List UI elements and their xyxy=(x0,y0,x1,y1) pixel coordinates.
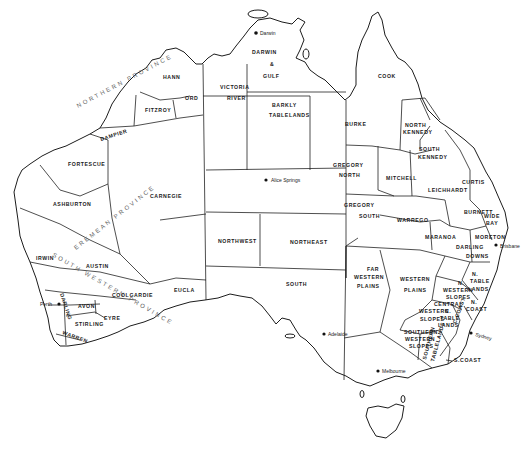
melville-island xyxy=(248,10,268,18)
adelaide-marker xyxy=(322,332,325,335)
region-northeast: NORTHEAST xyxy=(290,239,328,245)
region-coolgardie: COOLGARDIE xyxy=(112,292,153,298)
region-far-western-plains-1: FAR xyxy=(367,266,379,272)
region-wide-bay-2: BAY xyxy=(486,220,498,226)
region-north-kennedy-1: NORTH xyxy=(405,122,426,128)
region-n-tablelands-2: TABLE xyxy=(470,278,490,284)
region-northwest: NORTHWEST xyxy=(218,238,257,244)
city-perth: Perth xyxy=(40,301,52,307)
australia-regions-map: Darwin Alice Springs Perth Adelaide Melb… xyxy=(0,0,522,454)
city-brisbane: Brisbane xyxy=(500,243,520,249)
alice-springs-marker xyxy=(264,178,267,181)
king-island xyxy=(360,391,364,398)
region-barkly-1: BARKLY xyxy=(272,102,297,108)
kangaroo-island xyxy=(285,334,295,338)
region-n-coast-1: N. xyxy=(471,299,477,305)
region-stirling: STIRLING xyxy=(75,321,104,327)
region-gregory-north-2: NORTH xyxy=(339,172,360,178)
region-eyre: EYRE xyxy=(104,315,121,321)
flinders-island xyxy=(401,396,405,403)
region-c-tablelands-1: C. xyxy=(445,308,451,314)
darwin-marker xyxy=(254,31,258,35)
groote-eylandt xyxy=(303,49,309,59)
region-burke: BURKE xyxy=(345,121,366,127)
region-n-western-slopes-1: N. xyxy=(458,280,464,286)
region-mitchell: MITCHELL xyxy=(386,175,417,181)
region-n-western-slopes-3: SLOPES xyxy=(446,294,471,300)
region-austin: AUSTIN xyxy=(86,263,109,269)
region-darwin-gulf-3: GULF xyxy=(263,73,280,79)
region-n-coast-2: COAST xyxy=(466,306,487,312)
brisbane-marker xyxy=(494,243,497,246)
region-far-western-plains-3: PLAINS xyxy=(357,283,380,289)
region-darwin-gulf-1: DARWIN xyxy=(252,49,277,55)
region-gregory-south-2: SOUTH xyxy=(359,213,380,219)
region-darwin-gulf-2: & xyxy=(270,61,274,67)
region-darling-downs-1: DARLING xyxy=(456,244,484,250)
region-victoria-river-2: RIVER xyxy=(227,95,246,101)
region-irwin: IRWIN xyxy=(36,255,54,261)
region-n-tablelands-3: LANDS xyxy=(468,286,489,292)
tasmania-coastline xyxy=(366,404,404,438)
region-s-coast: S.COAST xyxy=(454,357,481,363)
region-cook: COOK xyxy=(378,73,396,79)
region-carnegie: CARNEGIE xyxy=(150,193,182,199)
region-avon: AVON xyxy=(78,303,95,309)
region-south: SOUTH xyxy=(286,281,307,287)
region-moreton: MORETON xyxy=(475,234,506,240)
region-eucla: EUCLA xyxy=(174,287,195,293)
region-far-western-plains-2: WESTERN xyxy=(354,274,384,280)
region-gregory-north-1: GREGORY xyxy=(333,162,364,168)
region-western-plains-1: WESTERN xyxy=(400,276,430,282)
region-south-kennedy-2: KENNEDY xyxy=(418,154,448,160)
region-western-plains-2: PLAINS xyxy=(404,287,427,293)
region-gregory-south-1: GREGORY xyxy=(344,202,375,208)
city-darwin: Darwin xyxy=(260,30,276,36)
region-maranoa: MARANOA xyxy=(425,234,456,240)
city-alice-springs: Alice Springs xyxy=(271,177,301,183)
region-victoria-river-1: VICTORIA xyxy=(220,84,250,90)
perth-marker xyxy=(57,302,60,305)
region-ashburton: ASHBURTON xyxy=(53,201,91,207)
region-leichhardt: LEICHHARDT xyxy=(428,187,468,193)
region-wide-bay-1: WIDE xyxy=(484,213,500,219)
region-n-tablelands-1: N. xyxy=(472,271,478,277)
region-curtis: CURTIS xyxy=(462,179,485,185)
region-south-kennedy-1: SOUTH xyxy=(419,146,440,152)
region-hann: HANN xyxy=(163,74,180,80)
city-adelaide: Adelaide xyxy=(328,331,348,337)
region-warrego: WARREGO xyxy=(397,217,429,223)
region-north-kennedy-2: KENNEDY xyxy=(403,129,433,135)
melbourne-marker xyxy=(376,369,379,372)
region-fitzroy: FITZROY xyxy=(145,107,171,113)
region-barkly-2: TABLELANDS xyxy=(269,112,310,118)
city-sydney: Sydney xyxy=(475,331,493,341)
sydney-marker xyxy=(469,331,472,334)
region-ord: ORD xyxy=(185,95,198,101)
city-melbourne: Melbourne xyxy=(382,368,406,374)
region-fortescue: FORTESCUE xyxy=(68,161,105,167)
region-darling-downs-2: DOWNS xyxy=(466,253,489,259)
